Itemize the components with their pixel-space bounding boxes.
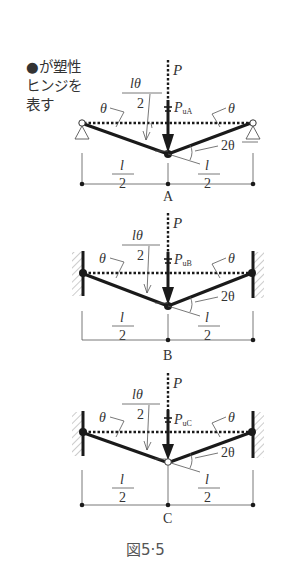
load-label: P bbox=[172, 215, 182, 231]
theta-right-label: θ bbox=[228, 101, 235, 116]
diagram-label: C bbox=[163, 511, 172, 526]
pin-support-right-icon bbox=[246, 126, 260, 139]
deflected-beam-right bbox=[168, 273, 252, 306]
pin-support-left-icon bbox=[75, 126, 89, 139]
deflection-denominator: 2 bbox=[137, 96, 144, 111]
theta-left-label: θ bbox=[99, 410, 106, 425]
fixed-wall-right-hatch bbox=[254, 412, 264, 458]
span-right-numerator: l bbox=[205, 472, 209, 487]
two-theta-label: 2θ bbox=[221, 138, 235, 153]
plastic-hinge-left bbox=[79, 269, 87, 277]
deflection-denominator: 2 bbox=[137, 407, 144, 422]
plastic-hinge-right bbox=[248, 269, 256, 277]
theta-right-label: θ bbox=[228, 410, 235, 425]
load-label: P bbox=[172, 375, 182, 391]
span-right-denominator: 2 bbox=[204, 328, 211, 343]
span-right-numerator: l bbox=[205, 158, 209, 173]
span-right-denominator: 2 bbox=[204, 176, 211, 191]
diagram-b: P PuB θ θ lθ 2 2θ l 2 l bbox=[72, 213, 264, 363]
deflection-numerator: lθ bbox=[132, 228, 143, 243]
beam-collapse-diagrams: P PuA θ θ lθ 2 2θ bbox=[0, 0, 282, 575]
deflected-beam-left bbox=[84, 433, 166, 462]
load-label: P bbox=[172, 62, 182, 78]
fixed-wall-right-hatch bbox=[254, 252, 264, 298]
plastic-hinge-right bbox=[248, 428, 256, 436]
span-left-numerator: l bbox=[120, 472, 124, 487]
deflected-beam-left bbox=[84, 124, 168, 154]
span-right-numerator: l bbox=[205, 310, 209, 325]
collapse-load-label: PuA bbox=[173, 100, 193, 116]
span-right-denominator: 2 bbox=[204, 490, 211, 505]
diagram-label: A bbox=[163, 189, 174, 204]
two-theta-label: 2θ bbox=[221, 289, 235, 304]
deflection-numerator: lθ bbox=[130, 76, 141, 91]
plastic-hinge-left bbox=[79, 428, 87, 436]
deflection-denominator: 2 bbox=[137, 248, 144, 263]
span-left-numerator: l bbox=[120, 158, 124, 173]
span-left-numerator: l bbox=[120, 310, 124, 325]
figure-caption: 図5·5 bbox=[126, 538, 165, 559]
theta-left-label: θ bbox=[100, 101, 107, 116]
deflected-beam-right bbox=[168, 123, 251, 154]
theta-right-label: θ bbox=[228, 251, 235, 266]
diagram-a: P PuA θ θ lθ 2 2θ bbox=[75, 60, 260, 204]
diagram-c: P PuC θ θ lθ 2 2θ l 2 l 2 bbox=[72, 373, 264, 526]
span-left-denominator: 2 bbox=[119, 176, 126, 191]
two-theta-label: 2θ bbox=[221, 445, 235, 460]
span-left-denominator: 2 bbox=[119, 328, 126, 343]
span-left-denominator: 2 bbox=[119, 490, 126, 505]
theta-left-label: θ bbox=[99, 251, 106, 266]
arrow-head-icon bbox=[162, 444, 174, 460]
diagram-label: B bbox=[163, 348, 172, 363]
deflection-numerator: lθ bbox=[132, 387, 143, 402]
collapse-load-label: PuC bbox=[173, 412, 192, 428]
deflected-beam-left bbox=[84, 274, 168, 306]
deflected-beam-right bbox=[170, 432, 252, 462]
hinge-center-open bbox=[165, 459, 172, 466]
collapse-load-label: PuB bbox=[173, 252, 192, 268]
